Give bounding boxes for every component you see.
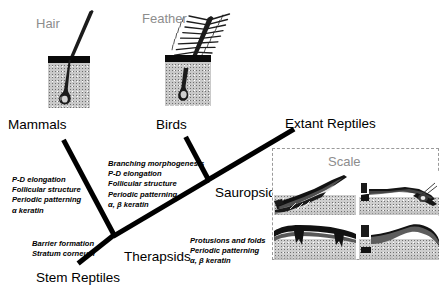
character-line: α keratin xyxy=(12,206,81,216)
hair-label: Hair xyxy=(36,17,60,30)
scale-section-icon xyxy=(274,171,356,215)
scale-section-icon xyxy=(359,217,439,260)
character-line: Protusions and folds xyxy=(190,236,266,246)
character-line: Follicular structure xyxy=(12,185,81,195)
taxon-label-birds: Birds xyxy=(156,118,187,132)
character-line: P-D elongation xyxy=(108,169,204,179)
taxon-label-mammals: Mammals xyxy=(8,118,67,132)
scale-section-icon xyxy=(274,217,356,260)
character-list-birds: Branching morphogenesis P-D elongation F… xyxy=(108,159,204,210)
character-line: Stratum corneum xyxy=(32,249,95,259)
character-list-extant-reptiles: Protusions and folds Periodic patterning… xyxy=(190,236,266,267)
figure-canvas: Hair xyxy=(0,0,441,291)
character-line: Periodic patterning xyxy=(108,190,204,200)
scale-section-icon xyxy=(359,171,439,215)
scale-panel-top-right xyxy=(359,171,439,215)
character-line: Branching morphogenesis xyxy=(108,159,204,169)
scale-box: Scale xyxy=(272,148,439,260)
character-line: Periodic patterning xyxy=(190,246,266,256)
feather-label: Feather xyxy=(142,12,187,25)
character-line: P-D elongation xyxy=(12,175,81,185)
scale-panel-bottom-left xyxy=(274,217,356,260)
scale-label: Scale xyxy=(328,155,361,168)
taxon-label-stem-reptiles: Stem Reptiles xyxy=(36,271,120,285)
scale-panel-top-left xyxy=(274,171,356,215)
taxon-label-therapsids: Therapsids xyxy=(124,250,191,264)
character-line: Barrier formation xyxy=(32,239,95,249)
character-line: Follicular structure xyxy=(108,179,204,189)
character-list-mammals: P-D elongation Follicular structure Peri… xyxy=(12,175,81,216)
character-line: Periodic patterning xyxy=(12,195,81,205)
hair-illustration: Hair xyxy=(40,10,102,110)
character-list-stem-reptiles: Barrier formation Stratum corneum xyxy=(32,239,95,259)
character-line: α, β keratin xyxy=(190,256,266,266)
taxon-label-extant-reptiles: Extant Reptiles xyxy=(285,117,376,131)
character-line: α, β keratin xyxy=(108,200,204,210)
feather-illustration: Feather xyxy=(145,6,235,110)
scale-panel-bottom-right xyxy=(359,217,439,260)
